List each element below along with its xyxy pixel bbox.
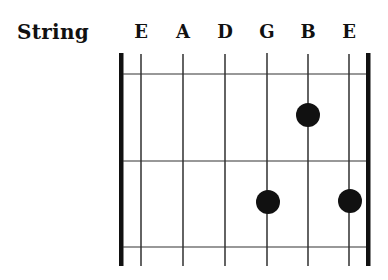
finger-dot-b-fret1	[296, 103, 320, 127]
left-border-bar	[119, 53, 124, 266]
fretboard-grid	[0, 0, 388, 280]
finger-dot-g-fret2	[256, 190, 280, 214]
strings	[141, 53, 349, 266]
right-border-bar	[366, 53, 371, 266]
finger-dot-high-e-fret2	[338, 189, 362, 213]
frets	[123, 74, 366, 247]
